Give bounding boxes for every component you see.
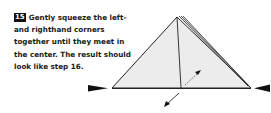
fold-solid-arrow-icon [164,93,179,107]
folded-paper-triangle [112,16,251,89]
origami-diagram [0,0,271,113]
push-right-arrow-icon [254,85,270,93]
push-left-arrow-icon [88,85,108,92]
